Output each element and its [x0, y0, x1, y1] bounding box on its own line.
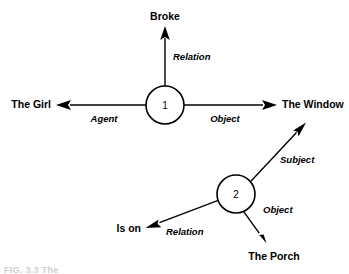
edge-line-node2-ison [160, 200, 219, 222]
role-label-agent: Agent [90, 113, 119, 124]
entity-label-the-girl: The Girl [11, 98, 51, 110]
node-2[interactable]: 2 [217, 175, 255, 213]
node-1[interactable]: 1 [146, 86, 184, 124]
node-2-label: 2 [233, 189, 239, 200]
entity-label-the-window: The Window [282, 98, 345, 110]
edge-node2-to-is-on [146, 200, 219, 228]
figure-caption-partial: FIG. 3.3 The [4, 265, 59, 274]
arrowhead-downleft-ison [146, 220, 162, 229]
entity-label-broke: Broke [150, 10, 180, 22]
arrowhead-up-broke [160, 26, 170, 40]
edge-node1-to-broke [160, 26, 170, 86]
role-label-relation-top: Relation [173, 51, 211, 62]
role-label-object-top: Object [210, 113, 240, 124]
arrowhead-left-thegirl [56, 100, 71, 110]
role-label-relation-bottom: Relation [166, 226, 204, 237]
edge-node2-to-the-porch [244, 212, 267, 244]
edge-node2-to-the-window [251, 122, 306, 181]
edge-line-node2-theporch [244, 212, 260, 233]
node-1-label: 1 [162, 100, 168, 111]
arrowhead-right-thewindow [262, 100, 277, 110]
arrowhead-downright-theporch [256, 232, 266, 244]
entity-label-is-on: Is on [116, 222, 141, 234]
entity-label-the-porch: The Porch [248, 250, 299, 262]
edge-node1-to-the-girl [56, 100, 146, 110]
edge-node1-to-the-window [184, 100, 277, 110]
role-label-subject: Subject [280, 154, 315, 165]
role-label-object-bottom: Object [263, 204, 293, 215]
